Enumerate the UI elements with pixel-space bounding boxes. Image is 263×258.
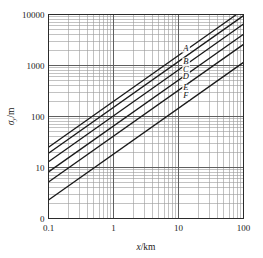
origin-zero-label: 0 (40, 214, 45, 224)
log-log-plot: ABCDEF0.1110100101001000100000x/kmσy/m (0, 0, 263, 258)
curve-label-F: F (182, 90, 189, 100)
chart-root: ABCDEF0.1110100101001000100000x/kmσy/m (0, 0, 263, 258)
ytick-label-1: 100 (31, 112, 45, 122)
ytick-label-3: 10000 (22, 10, 45, 20)
xtick-label-2: 10 (174, 223, 184, 233)
x-axis-label-units: /km (141, 242, 156, 252)
chart-canvas: ABCDEF0.1110100101001000100000x/kmσy/m (0, 0, 263, 258)
xtick-label-1: 1 (111, 223, 116, 233)
y-axis-label-units: /m (6, 107, 16, 118)
y-axis-label: σy/m (6, 107, 17, 125)
curve-label-A: A (182, 43, 189, 53)
x-axis-label: x/km (136, 242, 157, 252)
ytick-label-2: 1000 (27, 61, 46, 71)
xtick-label-3: 100 (237, 223, 251, 233)
ytick-label-0: 10 (36, 163, 46, 173)
xtick-label-0: 0.1 (43, 223, 54, 233)
curve-label-D: D (182, 71, 190, 81)
